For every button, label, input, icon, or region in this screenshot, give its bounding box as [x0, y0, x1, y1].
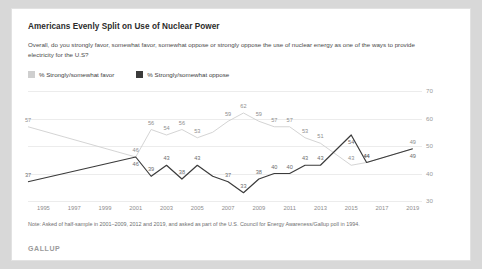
x-tick-label: 1995	[37, 205, 50, 211]
data-label-favor: 49	[410, 139, 416, 145]
x-tick-label: 2009	[252, 205, 265, 211]
legend-item-favor[interactable]: % Strongly/somewhat favor	[28, 71, 114, 78]
series-line-favor	[28, 113, 413, 165]
legend-swatch-oppose-icon	[136, 71, 143, 78]
legend-swatch-favor-icon	[28, 71, 35, 78]
series-line-oppose	[28, 135, 413, 193]
data-label-oppose: 37	[25, 172, 31, 178]
x-tick-label: 2011	[283, 205, 295, 211]
x-tick-label: 2005	[191, 205, 204, 211]
legend-label-oppose: % Strongly/somewhat oppose	[147, 71, 229, 78]
data-label-oppose: 40	[287, 164, 293, 170]
data-label-oppose: 38	[179, 169, 185, 175]
data-label-favor: 62	[240, 103, 246, 109]
data-label-favor: 57	[271, 117, 277, 123]
legend-item-oppose[interactable]: % Strongly/somewhat oppose	[136, 71, 229, 78]
y-tick-label: 50	[426, 142, 456, 149]
data-label-oppose: 43	[163, 155, 169, 161]
y-tick-label: 30	[426, 197, 456, 204]
chart-note: Note: Asked of half-sample in 2001–2009,…	[28, 220, 446, 228]
x-tick-label: 2001	[129, 205, 142, 211]
data-label-oppose: 38	[256, 169, 262, 175]
data-label-favor: 43	[348, 155, 354, 161]
data-label-oppose: 43	[317, 155, 323, 161]
data-label-oppose: 40	[271, 164, 277, 170]
data-label-oppose: 33	[240, 183, 246, 189]
gallup-logo: GALLUP	[28, 245, 60, 252]
data-label-oppose: 44	[363, 153, 369, 159]
data-label-favor: 57	[287, 117, 293, 123]
x-tick-label: 2013	[314, 205, 327, 211]
data-label-favor: 57	[25, 117, 31, 123]
data-label-oppose: 46	[133, 161, 139, 167]
data-label-favor: 56	[148, 120, 154, 126]
chart-subtitle: Overall, do you strongly favor, somewhat…	[28, 40, 428, 59]
data-label-favor: 51	[317, 133, 323, 139]
page-title: Americans Evenly Split on Use of Nuclear…	[28, 22, 220, 31]
data-label-favor: 53	[194, 128, 200, 134]
chart-legend: % Strongly/somewhat favor % Strongly/som…	[28, 71, 229, 78]
data-label-favor: 56	[179, 120, 185, 126]
data-label-oppose: 43	[194, 155, 200, 161]
chart-card: Americans Evenly Split on Use of Nuclear…	[11, 8, 471, 261]
y-tick-label: 60	[426, 115, 456, 122]
series-lines	[28, 91, 422, 201]
x-tick-label: 1999	[99, 205, 112, 211]
gridline	[28, 201, 422, 202]
x-tick-label: 1997	[68, 205, 81, 211]
data-label-favor: 46	[133, 147, 139, 153]
x-tick-label: 2007	[222, 205, 235, 211]
x-tick-label: 2015	[345, 205, 358, 211]
x-tick-label: 2017	[376, 205, 389, 211]
data-label-favor: 59	[225, 111, 231, 117]
data-label-oppose: 37	[225, 172, 231, 178]
y-tick-label: 40	[426, 170, 456, 177]
x-axis-labels: 1995199719992001200320052007200920112013…	[28, 205, 422, 215]
data-label-oppose: 49	[410, 153, 416, 159]
x-tick-label: 2003	[160, 205, 173, 211]
data-label-favor: 53	[302, 128, 308, 134]
data-label-oppose: 39	[148, 166, 154, 172]
plot-area: 3040506070 57465654565359625957575351434…	[28, 91, 456, 201]
x-tick-label: 2019	[406, 205, 419, 211]
y-tick-label: 70	[426, 87, 456, 94]
data-label-favor: 54	[163, 125, 169, 131]
data-label-oppose: 43	[302, 155, 308, 161]
data-label-favor: 59	[256, 111, 262, 117]
legend-label-favor: % Strongly/somewhat favor	[39, 71, 114, 78]
data-label-oppose: 54	[348, 139, 354, 145]
